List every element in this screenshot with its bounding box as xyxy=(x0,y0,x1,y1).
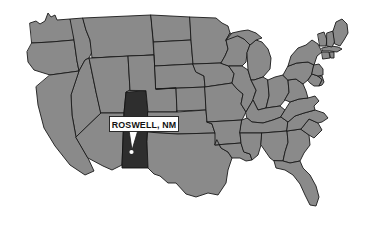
us-map-svg xyxy=(0,0,370,242)
us-map-figure: ROSWELL, NM xyxy=(0,0,370,242)
callout-box xyxy=(110,117,179,132)
state-maine xyxy=(333,19,348,46)
state-south-dakota xyxy=(154,40,193,66)
state-rhode-island xyxy=(330,52,334,58)
state-florida xyxy=(274,161,319,206)
state-new-york xyxy=(288,40,322,66)
state-oregon xyxy=(27,40,79,75)
state-washington xyxy=(30,13,74,43)
state-vermont xyxy=(318,32,327,46)
state-ohio xyxy=(266,75,289,108)
state-michigan-lower xyxy=(247,40,271,80)
state-new-jersey xyxy=(312,64,323,76)
state-north-dakota xyxy=(151,15,191,42)
state-georgia xyxy=(283,129,310,163)
roswell-city-dot xyxy=(129,150,133,154)
state-connecticut xyxy=(322,52,330,59)
state-shapes xyxy=(27,13,348,206)
state-montana xyxy=(83,15,154,58)
